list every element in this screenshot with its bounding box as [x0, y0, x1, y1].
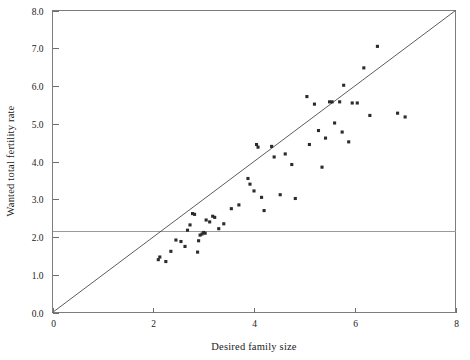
svg-text:6: 6 — [353, 319, 358, 329]
svg-text:0: 0 — [51, 319, 56, 329]
data-point — [217, 227, 220, 230]
plot-canvas: 0.01.02.03.04.05.06.07.08.0 02468 Desire… — [0, 0, 470, 360]
y-axis-tick-labels: 0.01.02.03.04.05.06.07.08.0 — [32, 7, 44, 319]
svg-text:5.0: 5.0 — [32, 120, 44, 130]
data-point — [341, 131, 344, 134]
svg-text:8.0: 8.0 — [32, 7, 44, 17]
data-point — [368, 114, 371, 117]
data-point — [333, 121, 336, 124]
data-points — [157, 45, 407, 263]
data-point — [313, 103, 316, 106]
x-axis-tick-labels: 02468 — [51, 319, 459, 329]
data-point — [196, 251, 199, 254]
data-point — [260, 196, 263, 199]
data-point — [396, 112, 399, 115]
data-point — [320, 166, 323, 169]
y-axis-title: Wanted total fertility rate — [5, 105, 16, 216]
data-point — [157, 258, 160, 261]
data-point — [290, 163, 293, 166]
data-point — [356, 101, 359, 104]
data-point — [237, 203, 240, 206]
data-point — [208, 220, 211, 223]
data-point — [193, 213, 196, 216]
data-point — [376, 45, 379, 48]
svg-text:7.0: 7.0 — [32, 44, 44, 54]
y-axis-ticks — [53, 12, 59, 314]
data-point — [246, 177, 249, 180]
data-point — [174, 238, 177, 241]
svg-text:0.0: 0.0 — [32, 309, 44, 319]
data-point — [351, 101, 354, 104]
data-point — [273, 155, 276, 158]
svg-text:3.0: 3.0 — [32, 195, 44, 205]
data-point — [179, 240, 182, 243]
data-point — [294, 197, 297, 200]
svg-text:2.0: 2.0 — [32, 233, 44, 243]
data-point — [342, 84, 345, 87]
svg-text:4: 4 — [252, 319, 257, 329]
data-point — [256, 146, 259, 149]
svg-text:1.0: 1.0 — [32, 271, 44, 281]
data-point — [169, 250, 172, 253]
scatter-plot-figure: 0.01.02.03.04.05.06.07.08.0 02468 Desire… — [0, 0, 470, 360]
svg-text:6.0: 6.0 — [32, 82, 44, 92]
svg-text:4.0: 4.0 — [32, 158, 44, 168]
data-point — [308, 143, 311, 146]
data-point — [213, 216, 216, 219]
data-point — [197, 239, 200, 242]
data-point — [230, 207, 233, 210]
data-point — [205, 218, 208, 221]
identity-line — [53, 11, 456, 313]
data-point — [331, 100, 334, 103]
data-point — [338, 100, 341, 103]
data-point — [317, 129, 320, 132]
data-point — [255, 143, 258, 146]
data-point — [284, 152, 287, 155]
data-point — [204, 232, 207, 235]
data-point — [252, 189, 255, 192]
data-point — [347, 140, 350, 143]
data-point — [362, 66, 365, 69]
data-point — [222, 222, 225, 225]
x-axis-ticks — [54, 308, 457, 313]
x-axis-title: Desired family size — [211, 341, 297, 352]
data-point — [270, 145, 273, 148]
svg-text:8: 8 — [454, 319, 459, 329]
data-point — [188, 223, 191, 226]
data-point — [279, 193, 282, 196]
data-point — [324, 137, 327, 140]
data-point — [183, 245, 186, 248]
svg-text:2: 2 — [151, 319, 156, 329]
data-point — [164, 260, 167, 263]
data-point — [158, 255, 161, 258]
data-point — [263, 209, 266, 212]
data-point — [404, 115, 407, 118]
data-point — [186, 229, 189, 232]
data-point — [248, 183, 251, 186]
data-point — [305, 95, 308, 98]
